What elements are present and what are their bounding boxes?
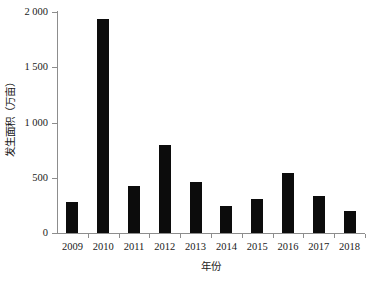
y-tick-label: 500 <box>2 173 48 183</box>
y-tick-mark <box>52 67 57 68</box>
y-tick-label: 1 500 <box>2 62 48 72</box>
x-tick-mark <box>149 234 150 238</box>
bar <box>251 199 263 233</box>
bar <box>190 182 202 233</box>
x-tick-mark <box>242 234 243 238</box>
x-tick-mark <box>119 234 120 238</box>
x-tick-mark <box>211 234 212 238</box>
y-tick-label: 2 000 <box>2 7 48 17</box>
bar <box>313 196 325 233</box>
x-tick-mark <box>88 234 89 238</box>
y-tick-mark <box>52 12 57 13</box>
x-axis-title: 年份 <box>57 258 365 273</box>
x-tick-mark <box>365 234 366 238</box>
bar <box>97 19 109 233</box>
y-axis-line <box>57 11 58 234</box>
y-axis-title-text: 发生面积（万亩） <box>2 77 17 157</box>
y-tick-label: 0 <box>2 228 48 238</box>
y-tick-mark <box>52 178 57 179</box>
x-tick-mark <box>180 234 181 238</box>
bar <box>344 211 356 233</box>
bar <box>282 173 294 233</box>
y-tick-mark <box>52 233 57 234</box>
bar <box>128 186 140 234</box>
bar <box>220 206 232 233</box>
bar <box>66 202 78 233</box>
y-tick-label: 1 000 <box>2 118 48 128</box>
bar-chart: 发生面积（万亩） 05001 0001 5002 000 20092010201… <box>0 0 373 282</box>
y-axis-title: 发生面积（万亩） <box>0 0 18 233</box>
x-tick-mark <box>273 234 274 238</box>
bar <box>159 145 171 233</box>
y-tick-mark <box>52 123 57 124</box>
x-tick-label: 2018 <box>330 241 370 253</box>
x-tick-mark <box>334 234 335 238</box>
x-tick-mark <box>303 234 304 238</box>
